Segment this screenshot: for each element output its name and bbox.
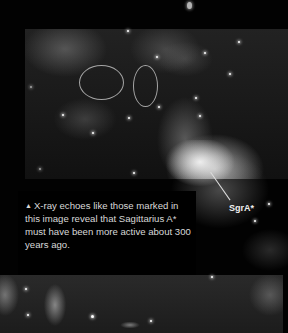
star [156,56,158,58]
star [195,97,197,99]
star [27,314,29,316]
star [199,115,201,117]
echo-ellipse-2 [133,65,158,107]
star [25,288,27,290]
star [268,203,270,205]
triangle-bullet-icon: ▲ [25,202,32,209]
echo-ellipse-1 [79,65,124,100]
star [187,2,192,9]
star [204,52,206,54]
star [92,132,94,134]
star [30,86,32,88]
star [211,276,213,278]
xray-panel-bottom [0,275,283,333]
star [133,172,135,174]
star [158,106,160,108]
star [39,168,41,170]
caption: ▲X-ray echoes like those marked in this … [25,199,195,251]
star [128,117,130,119]
star [229,73,231,75]
xray-image: SgrA* ▲X-ray echoes like those marked in… [0,0,288,333]
star [62,114,64,116]
caption-text: X-ray echoes like those marked in this i… [25,200,191,250]
star [254,220,256,222]
star [127,30,129,32]
sgra-label: SgrA* [229,203,254,213]
star [150,320,152,322]
star [91,315,94,318]
star [238,41,240,43]
